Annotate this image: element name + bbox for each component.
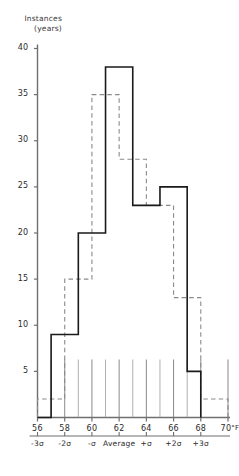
y-tick-label: 20: [5, 228, 29, 237]
y-tick-label: 5: [5, 366, 29, 375]
y-tick-label: 10: [5, 320, 29, 329]
y-tick-label: 25: [5, 181, 29, 190]
x-tick-label: 64: [131, 424, 161, 433]
axes-group: [30, 45, 231, 437]
x-tick-label: 70°F: [215, 424, 239, 433]
x-tick-label: 60: [77, 424, 107, 433]
y-tick-label: 35: [5, 89, 29, 98]
sigma-tick-label: +3σ: [184, 439, 218, 448]
histogram-canvas: [0, 0, 239, 476]
chart-root: Instances (years) 510152025303540 565860…: [0, 0, 239, 476]
y-tick-label: 30: [5, 135, 29, 144]
x-tick-label: 68: [186, 424, 216, 433]
x-tick-label: 56: [23, 424, 53, 433]
x-tick-label: 58: [50, 424, 80, 433]
x-tick-label-value: 70: [221, 424, 232, 433]
y-tick-label: 40: [5, 43, 29, 52]
x-axis-unit-label: °F: [231, 424, 239, 432]
x-tick-label: 62: [104, 424, 134, 433]
y-tick-label: 15: [5, 274, 29, 283]
x-tick-label: 66: [159, 424, 189, 433]
